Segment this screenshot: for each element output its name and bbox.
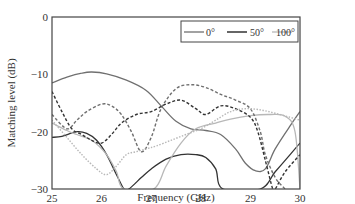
x-tick-label: 25 xyxy=(47,192,59,204)
x-tick-label: 26 xyxy=(96,192,108,204)
x-tick-label: 30 xyxy=(295,192,307,204)
series-line-5 xyxy=(52,109,300,175)
x-axis-label: Frequency (GHz) xyxy=(137,191,215,204)
series-line-4 xyxy=(52,92,300,192)
y-axis-ticks: 0−10−20−30 xyxy=(31,11,49,195)
plot-frame xyxy=(52,17,300,189)
y-tick-label: −20 xyxy=(31,126,49,138)
y-tick-label: −10 xyxy=(31,68,49,80)
y-tick-label: 0 xyxy=(43,11,49,23)
y-axis-label: Matching level (dB) xyxy=(5,58,18,148)
legend-label-0deg: 0° xyxy=(206,27,215,38)
series-line-0 xyxy=(52,72,300,172)
legend: 0° 50° 100° xyxy=(181,21,298,42)
legend-label-50deg: 50° xyxy=(250,27,264,38)
matching-level-chart: 252627282930 0−10−20−30 Frequency (GHz) … xyxy=(0,0,355,204)
series-line-3 xyxy=(52,85,285,189)
series-line-1 xyxy=(52,132,300,192)
x-tick-label: 29 xyxy=(245,192,257,204)
series-layer xyxy=(52,72,300,192)
legend-label-100deg: 100° xyxy=(276,27,295,38)
y-tick-label: −30 xyxy=(31,183,49,195)
